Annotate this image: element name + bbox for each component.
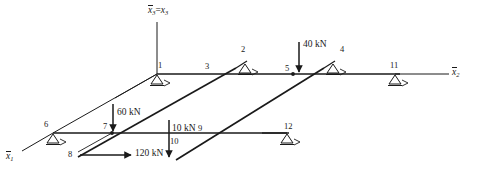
- load-label-40kn: 40 kN: [303, 40, 327, 50]
- axis-x3-rhs: x3: [161, 5, 168, 15]
- node-label-5: 5: [285, 64, 289, 73]
- node-dot-5: [291, 72, 295, 76]
- axis-x1-symbol: x1: [6, 152, 13, 162]
- member-diagonal-7-8-edge: [78, 133, 112, 152]
- load-label-120kn: 120 kN: [135, 149, 163, 159]
- member-diagonal-10-4: [176, 61, 335, 160]
- node-label-4: 4: [340, 45, 344, 54]
- node-label-9: 9: [198, 124, 202, 133]
- node-label-12: 12: [284, 122, 293, 131]
- node-label-11: 11: [390, 61, 398, 70]
- node-dot-7: [110, 131, 114, 135]
- node-label-1: 1: [158, 61, 162, 70]
- axis-label-x2: x2: [452, 68, 459, 78]
- support-roller-node-2: [238, 64, 258, 75]
- node-label-7: 7: [103, 122, 107, 131]
- load-label-10kn: 10 kN: [172, 124, 196, 134]
- node-label-8: 8: [68, 150, 72, 159]
- axis-label-x3: x3=x3: [148, 6, 168, 16]
- structural-frame-diagram: x3=x3 x2 x1 1 2 3 4 5 6 7 8 9 10 11 12 4…: [0, 0, 480, 184]
- axis-x3-symbol: x3: [148, 6, 155, 16]
- support-roller-node-12: [280, 134, 300, 145]
- node-label-10: 10: [170, 137, 179, 146]
- member-diagonal-8-2: [78, 61, 247, 157]
- support-roller-node-11: [388, 75, 408, 86]
- support-roller-node-4: [326, 64, 346, 75]
- axis-label-x1: x1: [6, 152, 13, 162]
- load-label-60kn: 60 kN: [117, 108, 141, 118]
- node-label-2: 2: [241, 45, 245, 54]
- axis-x2-symbol: x2: [452, 68, 459, 78]
- node-label-6: 6: [44, 120, 48, 129]
- axis-x1: [22, 133, 53, 151]
- node-label-3: 3: [205, 62, 209, 71]
